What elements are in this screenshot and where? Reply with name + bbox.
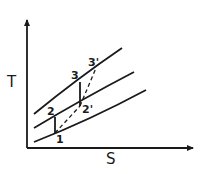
y-axis-label: T xyxy=(7,75,16,90)
point-label-2-prime: 2' xyxy=(82,104,93,115)
point-label-2: 2 xyxy=(47,106,55,117)
point-label-3: 3 xyxy=(71,70,79,81)
ts-diagram xyxy=(0,0,207,174)
middle-isobar-curve xyxy=(34,72,134,128)
point-label-3-prime: 3' xyxy=(88,57,99,68)
x-axis-label: S xyxy=(106,152,116,167)
point-label-1: 1 xyxy=(56,134,64,145)
